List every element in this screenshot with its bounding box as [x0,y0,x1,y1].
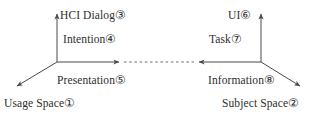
label-task: Task⑦ [209,33,242,46]
label-hci-dialog: HCI Dialog③ [60,9,126,22]
label-intention: Intention④ [63,33,117,46]
label-information: Information⑧ [208,74,275,87]
label-presentation: Presentation⑤ [57,74,126,87]
label-subject-space: Subject Space② [222,97,299,110]
label-ui: UI⑥ [228,9,251,22]
label-usage-space: Usage Space① [4,97,75,110]
diagram-canvas: HCI Dialog③ UI⑥ Intention④ Task⑦ Present… [0,0,316,119]
left-diagonal-axis [17,62,57,86]
